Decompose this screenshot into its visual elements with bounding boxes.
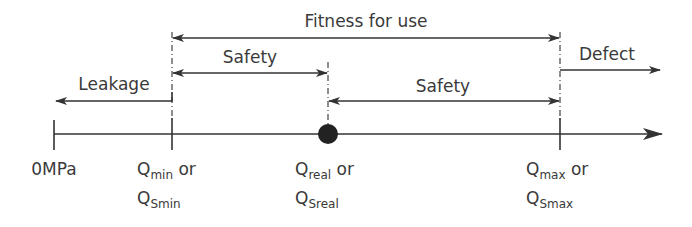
qsmin-label: QSmin	[137, 188, 181, 211]
qmax-label: Qmax or	[526, 159, 588, 182]
qsmax-label: QSmax	[526, 188, 573, 211]
fitness-label: Fitness for use	[304, 11, 427, 31]
fitness-for-use-diagram: Fitness for use Safety Safety Leakage De…	[0, 0, 692, 227]
qsreal-label: QSreal	[295, 188, 339, 211]
qreal-label: Qreal or	[295, 159, 354, 182]
leakage-label: Leakage	[78, 74, 149, 94]
safety-left-label: Safety	[223, 47, 277, 67]
safety-right-label: Safety	[416, 76, 470, 96]
qreal-marker	[318, 124, 338, 144]
qmin-label: Qmin or	[137, 159, 196, 182]
origin-label: 0MPa	[31, 159, 76, 179]
defect-label: Defect	[579, 44, 635, 64]
